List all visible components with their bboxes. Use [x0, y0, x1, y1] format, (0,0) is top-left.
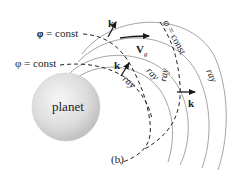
vg-label: Vg	[136, 43, 148, 58]
phase-label-middle: φ = const	[15, 57, 56, 69]
ray-label-4: ray	[204, 67, 220, 84]
k-label-right: k	[188, 97, 195, 109]
figure-caption: (b)	[111, 153, 124, 166]
k-label-upper: k	[108, 17, 115, 29]
planet-label: planet	[52, 99, 84, 114]
phase-label-upper-text: φ = const	[37, 27, 78, 39]
phase-label-right: φ = const	[161, 18, 188, 56]
wave-propagation-diagram: planet k k k Vg φφ = const φ = const φ =…	[0, 0, 234, 179]
k-label-middle: k	[114, 59, 121, 71]
ray-label-3: ray	[157, 67, 170, 83]
